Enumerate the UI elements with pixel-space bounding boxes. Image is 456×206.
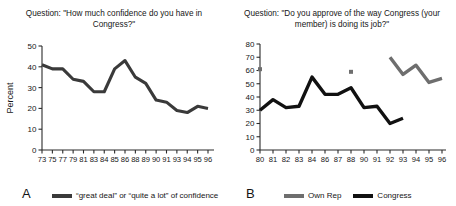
x-tick-label: 87 — [334, 155, 342, 164]
series-line-0 — [260, 77, 403, 123]
series-point-1 — [258, 67, 262, 71]
x-tick-label: 91 — [373, 155, 381, 164]
panel-b-letter: B — [246, 186, 255, 201]
y-tick-label: 20 — [246, 119, 255, 128]
y-tick-label: 40 — [28, 63, 37, 72]
legend-swatch-own-rep — [284, 194, 304, 198]
x-tick-label: 89 — [142, 155, 150, 164]
x-tick-label: 75 — [48, 155, 56, 164]
legend-label-congress: Congress — [377, 191, 411, 200]
x-tick-label: 94 — [412, 155, 420, 164]
x-tick-label: 95 — [193, 155, 201, 164]
y-tick-label: 0 — [250, 146, 255, 155]
legend-swatch-congress — [353, 194, 373, 198]
series-line-1 — [390, 57, 442, 82]
panel-a-letter: A — [22, 186, 31, 201]
panel-b-legend: Own Rep Congress — [284, 191, 412, 200]
panel-a-svg: 0102030405073757779818384858688899091939… — [0, 36, 228, 176]
x-tick-label: 96 — [204, 155, 212, 164]
legend-item-own-rep: Own Rep — [284, 191, 341, 200]
series-point-1 — [349, 70, 353, 74]
x-tick-label: 84 — [100, 155, 108, 164]
y-tick-label: 40 — [246, 93, 255, 102]
x-tick-label: 86 — [321, 155, 329, 164]
series-line-0 — [42, 61, 208, 113]
x-tick-label: 88 — [131, 155, 139, 164]
y-tick-label: 10 — [246, 133, 255, 142]
x-tick-label: 85 — [110, 155, 118, 164]
x-tick-label: 86 — [121, 155, 129, 164]
panel-b-footer: B Own Rep Congress — [228, 181, 456, 203]
legend-label-confidence: “great deal” or “quite a lot” of confide… — [76, 191, 218, 200]
y-tick-label: 30 — [28, 84, 37, 93]
legend-label-own-rep: Own Rep — [308, 191, 341, 200]
x-tick-label: 94 — [183, 155, 191, 164]
panel-a: Question: "How much confidence do you ha… — [0, 0, 228, 206]
x-tick-label: 82 — [282, 155, 290, 164]
x-tick-label: 95 — [425, 155, 433, 164]
y-axis-label: Percent — [5, 82, 15, 114]
x-tick-label: 81 — [269, 155, 277, 164]
x-tick-label: 91 — [162, 155, 170, 164]
y-tick-label: 50 — [246, 80, 255, 89]
x-tick-label: 90 — [360, 155, 368, 164]
x-tick-label: 81 — [79, 155, 87, 164]
x-tick-label: 79 — [69, 155, 77, 164]
panel-b: Question: "Do you approve of the way Con… — [228, 0, 456, 206]
y-tick-label: 0 — [32, 146, 37, 155]
y-tick-label: 30 — [246, 106, 255, 115]
x-tick-label: 93 — [399, 155, 407, 164]
panel-a-footer: A “great deal” or “quite a lot” of confi… — [0, 181, 228, 203]
x-tick-label: 83 — [295, 155, 303, 164]
legend-item-confidence: “great deal” or “quite a lot” of confide… — [52, 191, 218, 200]
x-tick-label: 83 — [90, 155, 98, 164]
x-tick-label: 80 — [256, 155, 264, 164]
x-tick-label: 88 — [347, 155, 355, 164]
y-tick-label: 20 — [28, 104, 37, 113]
figure-two-panel-chart: Question: "How much confidence do you ha… — [0, 0, 456, 206]
y-tick-label: 50 — [28, 42, 37, 51]
y-tick-label: 80 — [246, 40, 255, 49]
x-tick-label: 96 — [438, 155, 446, 164]
y-tick-label: 70 — [246, 53, 255, 62]
x-tick-label: 93 — [173, 155, 181, 164]
y-tick-label: 10 — [28, 125, 37, 134]
legend-item-congress: Congress — [353, 191, 411, 200]
y-tick-label: 60 — [246, 66, 255, 75]
x-tick-label: 84 — [308, 155, 316, 164]
panel-b-svg: 0102030405060708080818283848687889091929… — [228, 36, 456, 176]
panel-a-legend: “great deal” or “quite a lot” of confide… — [52, 191, 218, 200]
x-tick-label: 77 — [59, 155, 67, 164]
x-tick-label: 73 — [38, 155, 46, 164]
panel-b-plot: 0102030405060708080818283848687889091929… — [228, 36, 456, 176]
panel-a-title: Question: "How much confidence do you ha… — [8, 8, 220, 30]
panel-b-title: Question: "Do you approve of the way Con… — [236, 8, 448, 30]
x-tick-label: 92 — [386, 155, 394, 164]
panel-a-plot: 0102030405073757779818384858688899091939… — [0, 36, 228, 176]
x-tick-label: 90 — [152, 155, 160, 164]
legend-swatch-confidence — [52, 194, 72, 198]
